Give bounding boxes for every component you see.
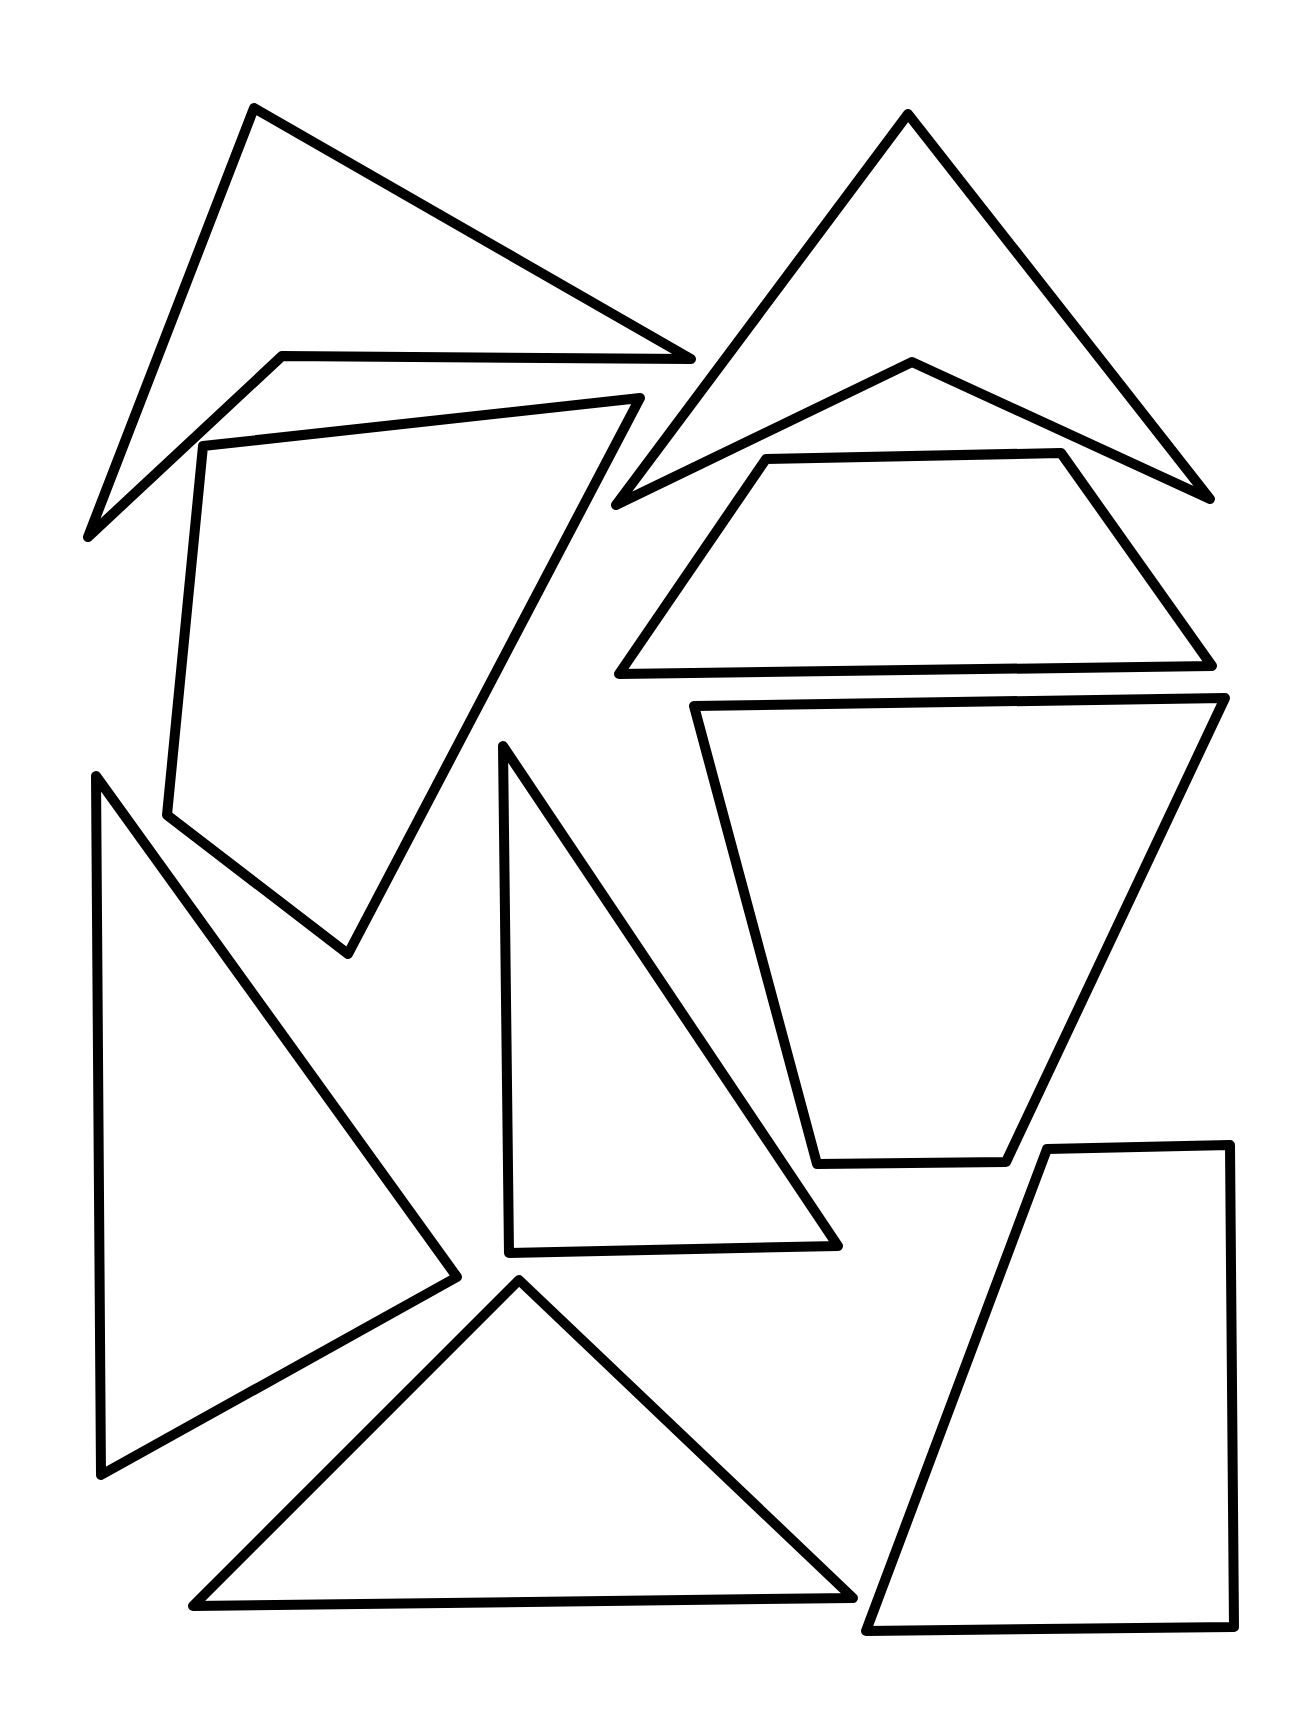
shapes-canvas <box>0 0 1313 1719</box>
